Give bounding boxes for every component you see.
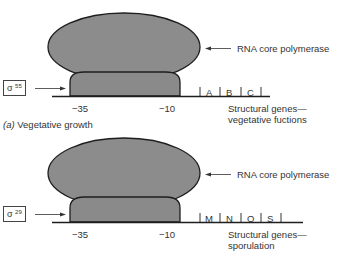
- panel-a-graphics: [35, 13, 270, 97]
- sigma-arrow: [35, 213, 66, 217]
- gene-label: C: [247, 87, 254, 98]
- polymerase-arrow: [205, 173, 231, 177]
- sigma-symbol: σ: [7, 83, 13, 93]
- position-label-minus10: −10: [159, 229, 175, 240]
- gene-label: M: [205, 213, 213, 224]
- panel-caption-text: Vegetative growth: [17, 119, 93, 130]
- polymerase-arrow: [205, 47, 231, 51]
- panel-caption: (a) Vegetative growth: [3, 119, 93, 130]
- position-label-minus35: −35: [72, 103, 88, 114]
- gene-label: O: [247, 213, 254, 224]
- sigma-symbol: σ: [7, 209, 13, 219]
- polymerase-label: RNA core polymerase: [237, 169, 329, 180]
- position-label-minus10: −10: [159, 103, 175, 114]
- structural-genes-label: Structural genes—: [228, 229, 307, 240]
- gene-label: B: [226, 87, 232, 98]
- gene-label: A: [206, 87, 212, 98]
- position-label-minus35: −35: [72, 229, 88, 240]
- gene-label: S: [267, 213, 273, 224]
- sigma-arrow: [35, 87, 66, 91]
- polymerase-label: RNA core polymerase: [237, 43, 329, 54]
- sigma-factor-shape: [70, 197, 180, 222]
- sigma-factor-label: σ 55: [3, 80, 26, 96]
- sigma-superscript: 29: [15, 209, 22, 215]
- structural-genes-label: Structural genes—: [228, 103, 307, 114]
- rna-core-polymerase-shape: [48, 13, 200, 81]
- gene-label: N: [226, 213, 233, 224]
- panel-b-graphics: [35, 138, 303, 223]
- structural-genes-function: vegetative fuctions: [228, 114, 307, 125]
- sigma-factor-shape: [70, 72, 180, 96]
- sigma-superscript: 55: [15, 83, 22, 89]
- sigma-factor-label: σ 29: [3, 206, 26, 222]
- panel-letter: (a): [3, 119, 15, 130]
- structural-genes-function: sporulation: [228, 240, 274, 251]
